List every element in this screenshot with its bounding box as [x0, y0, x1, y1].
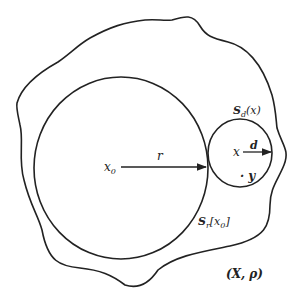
- point-y-label: · y: [240, 169, 256, 183]
- big-ball-center-label: x0: [104, 160, 116, 176]
- radius-d-label: d: [250, 139, 258, 152]
- small-ball-center-label: x: [233, 145, 240, 159]
- big-ball-circle: [34, 77, 208, 259]
- small-ball-label: Sd(x): [233, 104, 261, 119]
- radius-r-label: r: [157, 149, 164, 163]
- metric-space-diagram: x0 r Sr[x0] Sd(x) x d · y (X, ρ): [0, 0, 301, 304]
- big-ball-label: Sr[x0]: [198, 215, 230, 230]
- space-label: (X, ρ): [226, 267, 263, 281]
